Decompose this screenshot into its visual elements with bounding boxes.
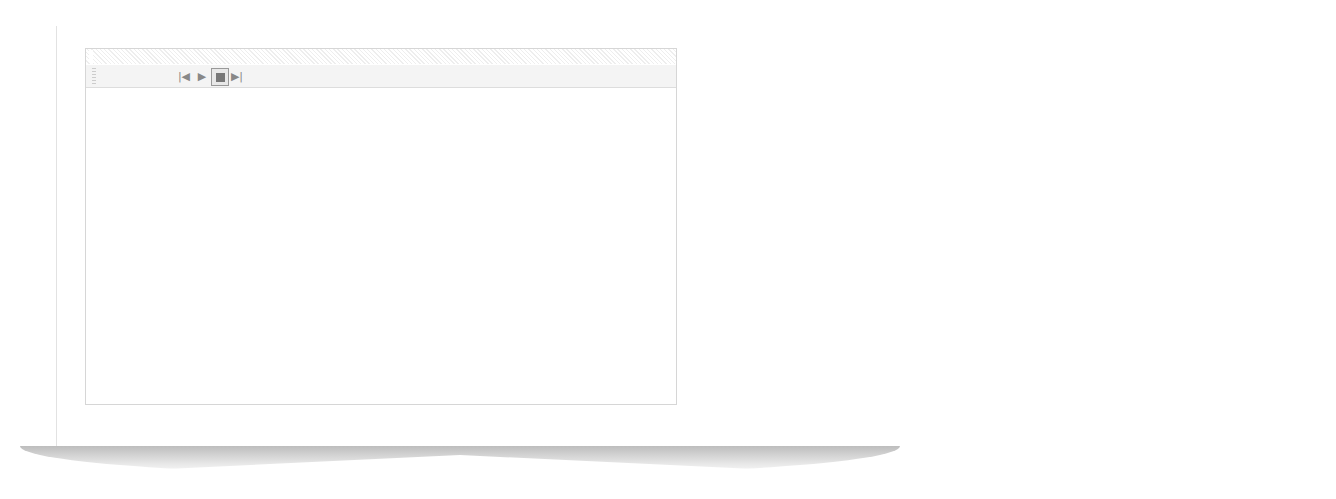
play-icon: ▶ <box>198 70 206 83</box>
last-frame-button[interactable]: ▶| <box>229 68 245 84</box>
graph-panel: |◀ ▶ ▶| <box>85 48 677 405</box>
stop-button[interactable] <box>211 68 229 86</box>
animation-toolbar: |◀ ▶ ▶| <box>86 65 676 88</box>
skip-back-icon: |◀ <box>178 70 190 83</box>
graph-panel-title <box>86 49 676 64</box>
toolbar-grip[interactable] <box>92 68 96 84</box>
stop-icon <box>216 73 225 82</box>
play-button[interactable]: ▶ <box>194 68 210 84</box>
skip-forward-icon: ▶| <box>231 70 243 83</box>
first-frame-button[interactable]: |◀ <box>176 68 192 84</box>
frame-shadow <box>20 446 900 476</box>
